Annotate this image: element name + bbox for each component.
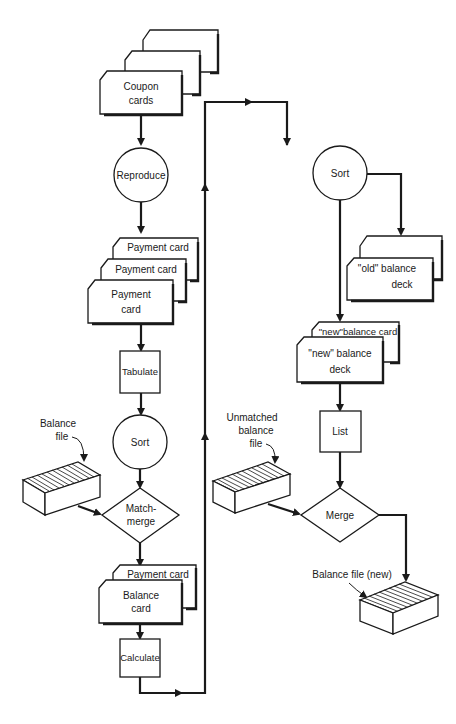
calculate-process: Calculate	[120, 639, 160, 677]
sort-process-left: Sort	[113, 415, 167, 469]
coupon-cards-deck: Coupon cards	[100, 30, 218, 115]
new-balance-deck: "new"balance card "new" balance deck	[297, 322, 399, 383]
sort-left-label: Sort	[131, 437, 150, 448]
new-balance-card-label: "new"balance card	[319, 326, 398, 337]
balance-card-label-1: Balance	[123, 590, 160, 601]
reproduce-process: Reproduce	[114, 148, 168, 202]
list-label: List	[332, 426, 348, 437]
connector-arrowhead-down	[283, 138, 291, 146]
arrow-balance-file-to-match-merge	[78, 506, 100, 514]
coupon-cards-label-2: cards	[129, 95, 153, 106]
arrow-sort-to-old-deck	[367, 174, 401, 234]
balance-file-label-2: file	[56, 431, 69, 442]
arrow-unmatched-to-merge	[268, 504, 299, 514]
balance-file-new-label: Balance file (new)	[312, 569, 391, 580]
balance-file-label-group: Balance file	[40, 418, 84, 460]
unmatched-label-1: Unmatched	[226, 412, 277, 423]
sort-process-right: Sort	[313, 146, 367, 200]
unmatched-label-2: balance	[238, 425, 273, 436]
payment-card-front-label-1: Payment	[111, 289, 151, 300]
payment-card-back-label-3: Payment card	[127, 569, 189, 580]
match-merge-decision: Match- merge	[102, 488, 179, 543]
sort-right-label: Sort	[331, 168, 350, 179]
unmatched-label-3: file	[250, 438, 263, 449]
reproduce-label: Reproduce	[117, 170, 166, 181]
connector-arrowhead-right-top	[245, 98, 253, 106]
payment-cards-deck: Payment card Payment card Payment card	[88, 238, 198, 324]
balance-file-storage	[23, 462, 100, 515]
calculate-label: Calculate	[120, 652, 160, 663]
merge-decision: Merge	[301, 488, 379, 542]
unmatched-balance-file-label-group: Unmatched balance file	[226, 412, 277, 462]
match-merge-label-2: merge	[127, 516, 156, 527]
new-balance-deck-label-2: deck	[329, 364, 351, 375]
connector-arrowhead-up-2	[201, 183, 209, 191]
payment-card-back-label-2: Payment card	[115, 264, 177, 275]
tabulate-process: Tabulate	[120, 351, 160, 393]
flowchart-canvas: Coupon cards Reproduce Payment card Paym…	[0, 0, 456, 724]
old-balance-deck-label-1: "old" balance	[358, 263, 417, 274]
payment-card-front-label-2: card	[121, 304, 140, 315]
connector-arrowhead-right	[175, 689, 183, 697]
unmatched-balance-file-storage	[213, 462, 290, 513]
old-balance-deck: "old" balance deck	[347, 236, 442, 301]
new-balance-deck-label-1: "new" balance	[308, 348, 372, 359]
balance-file-label-1: Balance	[40, 418, 77, 429]
connector-arrowhead-up-1	[201, 432, 209, 440]
balance-card-label-2: card	[131, 603, 150, 614]
match-merge-label-1: Match-	[126, 503, 157, 514]
balance-card-deck: Payment card Balance card	[99, 565, 196, 624]
tabulate-label: Tabulate	[122, 366, 158, 377]
balance-file-new-storage	[360, 582, 438, 634]
coupon-cards-label-1: Coupon	[123, 81, 158, 92]
payment-card-back-label-1: Payment card	[127, 242, 189, 253]
old-balance-deck-label-2: deck	[391, 279, 413, 290]
merge-label: Merge	[326, 510, 355, 521]
list-process: List	[320, 411, 361, 452]
